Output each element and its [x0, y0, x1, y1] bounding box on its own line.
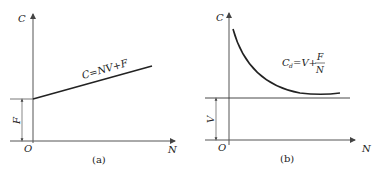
origin-label: O [24, 143, 32, 154]
curve-label: C d =V+ F N [282, 52, 325, 75]
caption-a: (a) [92, 154, 106, 165]
y-axis-label: C [18, 13, 26, 24]
panel-a: C N O F C=NV+F (a) [10, 13, 178, 165]
cost-diagrams: C N O F C=NV+F (a) C N O V C d =V+ F N (… [0, 0, 377, 180]
caption-b: (b) [280, 153, 294, 164]
intercept-label: F [11, 116, 22, 125]
svg-text:=V+: =V+ [293, 57, 317, 68]
asymptote-label: V [205, 114, 216, 123]
panel-b: C N O V C d =V+ F N (b) [205, 12, 372, 164]
y-axis-label: C [216, 12, 224, 23]
curve-label: C=NV+F [81, 57, 131, 81]
svg-text:F: F [316, 52, 324, 62]
svg-text:N: N [315, 65, 325, 75]
x-axis-label: N [167, 144, 178, 155]
x-axis-label: N [361, 143, 372, 154]
origin-label: O [218, 142, 226, 153]
